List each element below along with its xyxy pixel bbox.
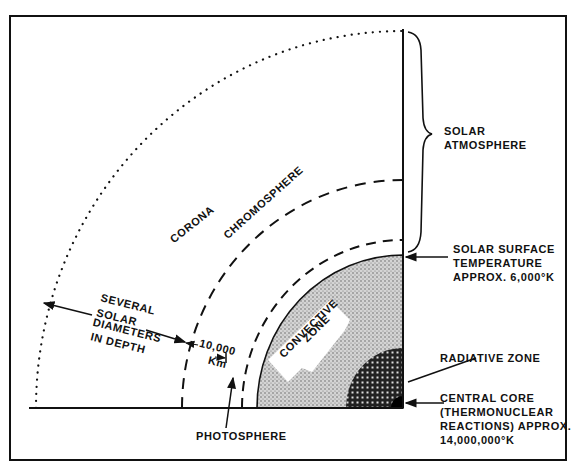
photosphere-arrow <box>226 378 233 428</box>
solar-atmosphere-label-1: SOLAR <box>444 125 486 138</box>
corona-depth-arrow-left <box>44 303 92 315</box>
solar-atmosphere-label-2: ATMOSPHERE <box>444 139 527 152</box>
surface-temp-label-2: TEMPERATURE <box>453 257 543 270</box>
surface-temp-label-3: APPROX. 6,000°K <box>453 271 554 284</box>
photosphere-label: PHOTOSPHERE <box>196 430 287 443</box>
radiative-zone-label: RADIATIVE ZONE <box>440 352 540 365</box>
core-label-1: CENTRAL CORE <box>440 392 534 405</box>
surface-temp-label-1: SOLAR SURFACE <box>453 243 555 256</box>
core-label-3: REACTIONS) APPROX. <box>440 420 571 433</box>
core-label-4: 14,000,000°K <box>440 434 515 447</box>
core-label-2: (THERMONUCLEAR <box>440 406 554 419</box>
solar-atmosphere-brace <box>408 32 432 252</box>
